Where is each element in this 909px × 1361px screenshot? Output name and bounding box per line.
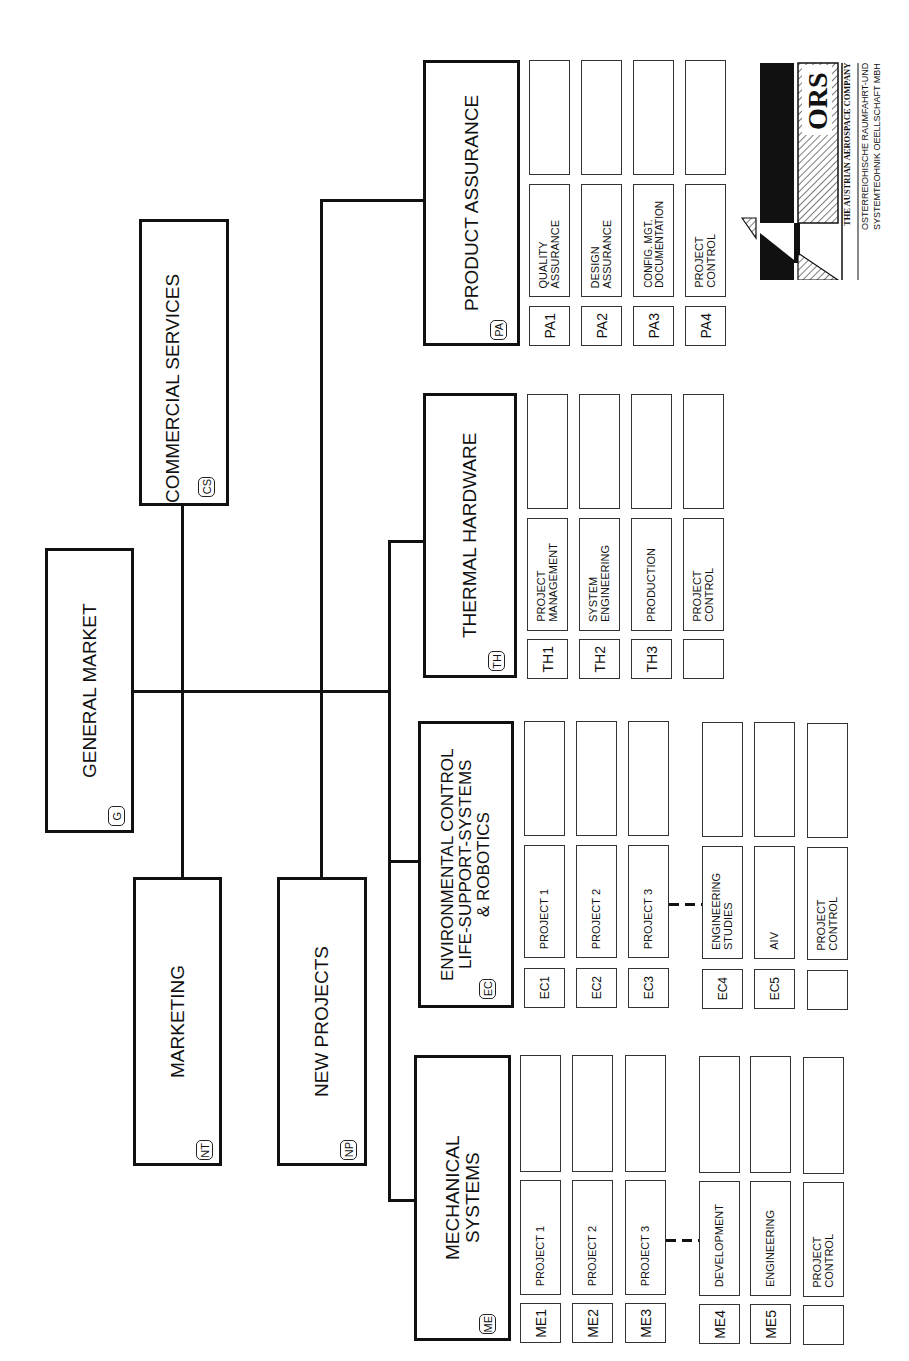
th-unit-code: TH1 — [527, 639, 568, 679]
me-unit-label: PROJECT 3 — [625, 1180, 666, 1295]
mechanical-systems-box: MECHANICAL SYSTEMS ME — [414, 1055, 511, 1341]
logo-company-line2: SYSTEMTEOHNIK OEELLSCHAFT MBH — [873, 63, 882, 280]
ec-unit-blank — [702, 722, 743, 837]
environmental-control-code-badge: EC — [479, 979, 496, 999]
ec-unit-blank — [807, 723, 848, 838]
product-assurance-title: PRODUCT ASSURANCE — [426, 63, 517, 343]
me-unit-label: ENGINEERING — [750, 1181, 791, 1296]
th-unit-blank — [631, 394, 672, 509]
me-unit-code: ME1 — [520, 1303, 561, 1343]
pa-unit-blank — [581, 60, 622, 175]
me-dashed-connector — [666, 1239, 699, 1242]
commercial-services-box: COMMERCIAL SERVICES CS — [139, 219, 229, 506]
ec-unit-label: PROJECT 1 — [524, 845, 565, 958]
th-unit-label: SYSTEM ENGINEERING — [579, 518, 620, 631]
me-unit-label: PROJECT 1 — [520, 1180, 561, 1295]
th-unit-label: PRODUCTION — [631, 518, 672, 631]
thermal-hardware-title: THERMAL HARDWARE — [426, 396, 514, 675]
pa-unit-code: PA4 — [685, 306, 726, 346]
general-market-title: GENERAL MARKET — [48, 551, 131, 830]
commercial-services-title: COMMERCIAL SERVICES — [142, 222, 226, 503]
ec-unit-code: EC4 — [702, 969, 743, 1009]
pa-unit-blank — [633, 60, 674, 175]
me-unit-blank — [520, 1055, 561, 1172]
pa-unit-blank — [685, 60, 726, 175]
me-unit-code: ME5 — [750, 1304, 791, 1344]
general-market-code-badge: G — [108, 806, 125, 826]
commercial-services-code-badge: CS — [198, 477, 215, 497]
me-unit-blank — [699, 1056, 740, 1173]
ors-logo: ORS THE AUSTRIAN AEROSPACE COMPANY OSTER… — [730, 55, 909, 280]
me-unit-code — [803, 1305, 844, 1345]
th-unit-label: PROJECT CONTROL — [683, 518, 724, 631]
general-market-box: GENERAL MARKET G — [45, 548, 134, 833]
pa-unit-code: PA1 — [529, 306, 570, 346]
ec-dashed-connector — [669, 903, 702, 906]
new-projects-code-badge: NP — [340, 1140, 357, 1160]
connector-th — [388, 540, 424, 543]
ec-unit-blank — [576, 721, 617, 836]
ec-unit-label: AIV — [754, 846, 795, 959]
pa-unit-label: DESIGN ASSURANCE — [581, 184, 622, 297]
ec-unit-code: EC3 — [628, 968, 669, 1008]
ec-unit-blank — [628, 721, 669, 836]
me-unit-blank — [572, 1055, 613, 1172]
th-unit-code — [683, 639, 724, 679]
connector-me — [388, 1199, 415, 1202]
pa-unit-code: PA2 — [581, 306, 622, 346]
th-unit-blank — [579, 394, 620, 509]
environmental-control-title: ENVIRONMENTAL CONTROL LIFE-SUPPORT-SYSTE… — [421, 724, 511, 1005]
me-unit-blank — [625, 1055, 666, 1172]
marketing-box: MARKETING NT — [133, 877, 222, 1166]
ec-unit-label: PROJECT 3 — [628, 845, 669, 958]
th-unit-code: TH2 — [579, 639, 620, 679]
th-unit-blank — [527, 394, 568, 509]
me-unit-code: ME2 — [572, 1303, 613, 1343]
me-unit-label: DEVELOPMENT — [699, 1181, 740, 1296]
ec-unit-label: ENGINEERING STUDIES — [702, 846, 743, 959]
ec-unit-blank — [754, 722, 795, 837]
ec-unit-code — [807, 970, 848, 1010]
logo-company-line1: OSTERREIOHISCHE RAUMFAHRT-UND — [861, 63, 870, 280]
th-unit-blank — [683, 394, 724, 509]
thermal-hardware-code-badge: TH — [488, 651, 505, 671]
ec-unit-code: EC5 — [754, 969, 795, 1009]
ec-unit-code: EC2 — [576, 968, 617, 1008]
me-unit-label: PROJECT 2 — [572, 1180, 613, 1295]
me-unit-code: ME3 — [625, 1303, 666, 1343]
pa-unit-label: CONFIG. MGT. DOCUMENTATION — [633, 184, 674, 297]
pa-unit-label: QUALITY ASSURANCE — [529, 184, 570, 297]
connector-cs-marketing — [181, 505, 184, 878]
connector-ec — [388, 860, 419, 863]
me-unit-code: ME4 — [699, 1304, 740, 1344]
me-unit-blank — [803, 1057, 844, 1174]
ors-wordmark: ORS — [803, 67, 832, 135]
pa-unit-label: PROJECT CONTROL — [685, 184, 726, 297]
mechanical-systems-code-badge: ME — [479, 1314, 496, 1334]
environmental-control-box: ENVIRONMENTAL CONTROL LIFE-SUPPORT-SYSTE… — [418, 721, 514, 1008]
product-assurance-box: PRODUCT ASSURANCE PA — [423, 60, 520, 346]
mechanical-systems-title: MECHANICAL SYSTEMS — [417, 1058, 508, 1338]
thermal-hardware-box: THERMAL HARDWARE TH — [423, 393, 517, 678]
th-unit-label: PROJECT MANAGEMENT — [527, 518, 568, 631]
ec-unit-code: EC1 — [524, 968, 565, 1008]
connector-np-pa — [320, 199, 424, 202]
marketing-code-badge: NT — [196, 1140, 213, 1160]
me-unit-blank — [750, 1056, 791, 1173]
me-unit-label: PROJECT CONTROL — [803, 1182, 844, 1297]
th-unit-code: TH3 — [631, 639, 672, 679]
ec-unit-label: PROJECT 2 — [576, 845, 617, 958]
logo-tagline: THE AUSTRIAN AEROSPACE COMPANY — [843, 63, 852, 280]
connector-gm-spine — [133, 690, 391, 693]
new-projects-box: NEW PROJECTS NP — [277, 877, 367, 1166]
pa-unit-blank — [529, 60, 570, 175]
ec-unit-label: PROJECT CONTROL — [807, 847, 848, 960]
marketing-title: MARKETING — [136, 880, 219, 1163]
new-projects-title: NEW PROJECTS — [280, 880, 364, 1163]
connector-dept-spine — [388, 540, 391, 1201]
ec-unit-blank — [524, 721, 565, 836]
connector-np-vertical — [320, 199, 323, 878]
product-assurance-code-badge: PA — [490, 320, 507, 340]
pa-unit-code: PA3 — [633, 306, 674, 346]
